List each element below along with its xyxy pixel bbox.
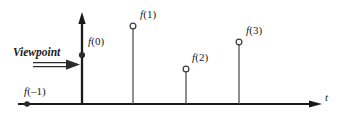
vertical-axis-arrowhead	[78, 12, 85, 24]
viewpoint-label: Viewpoint	[13, 47, 60, 59]
label-f2: f(2)	[192, 52, 208, 63]
viewpoint-arrow-icon	[33, 59, 80, 69]
t-axis	[18, 100, 322, 107]
t-axis-label: t	[325, 92, 328, 103]
label-f3: f(3)	[246, 25, 262, 36]
label-f2-arg: (2)	[195, 51, 208, 63]
label-f0: f(0)	[88, 36, 104, 47]
figure-canvas	[0, 0, 341, 120]
marker-f2	[183, 66, 189, 72]
label-f3-arg: (3)	[249, 24, 262, 36]
label-f0-arg: (0)	[91, 35, 104, 47]
t-axis-arrowhead	[309, 100, 322, 107]
label-f1: f(1)	[140, 9, 156, 20]
discrete-signal-figure: Viewpoint f(–1) f(0) f(1) f(2) f(3) t	[0, 0, 341, 120]
marker-f3	[236, 39, 242, 45]
label-f-minus-1: f(–1)	[24, 86, 46, 97]
label-f1-arg: (1)	[143, 8, 156, 20]
marker-f-minus-1	[24, 101, 30, 107]
viewpoint-arrowhead	[66, 59, 80, 69]
marker-f1	[130, 23, 136, 29]
marker-f0	[79, 52, 85, 58]
label-f-minus-1-arg: (–1)	[27, 85, 46, 97]
